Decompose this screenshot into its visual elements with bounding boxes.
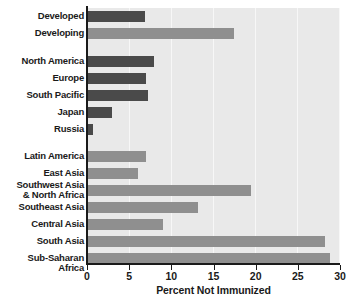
- x-tick-label: 15: [202, 270, 226, 282]
- x-axis-title: Percent Not Immunized: [87, 284, 340, 296]
- bar: [87, 90, 148, 101]
- x-tick-label: 5: [117, 270, 141, 282]
- category-label: Southeast Asia: [0, 202, 84, 212]
- gridline-30: [339, 8, 340, 263]
- bar: [87, 168, 138, 179]
- category-label: North America: [0, 56, 84, 66]
- category-label: Developed: [0, 11, 84, 21]
- category-label: South Pacific: [0, 90, 84, 100]
- gridline-10: [171, 8, 172, 263]
- x-tick-label: 10: [159, 270, 183, 282]
- bar: [87, 236, 325, 247]
- category-label: Developing: [0, 28, 84, 38]
- bar: [87, 219, 163, 230]
- gridline-25: [297, 8, 298, 263]
- bar: [87, 151, 146, 162]
- category-label: Southwest Asia & North Africa: [0, 180, 84, 200]
- bar: [87, 107, 112, 118]
- category-label: Europe: [0, 73, 84, 83]
- category-label: Japan: [0, 107, 84, 117]
- category-label: East Asia: [0, 168, 84, 178]
- gridline-20: [255, 8, 256, 263]
- bar: [87, 28, 234, 39]
- category-label: Sub-Saharan Africa: [0, 253, 84, 273]
- category-label: Latin America: [0, 151, 84, 161]
- y-axis-line: [86, 6, 88, 265]
- gridline-15: [213, 8, 214, 263]
- bar: [87, 11, 145, 22]
- x-tick-label: 20: [244, 270, 268, 282]
- category-label: South Asia: [0, 236, 84, 246]
- category-labels: DevelopedDevelopingNorth AmericaEuropeSo…: [0, 0, 84, 303]
- bar: [87, 185, 251, 196]
- x-tick-label: 25: [286, 270, 310, 282]
- category-label: Russia: [0, 124, 84, 134]
- plot-area: [87, 8, 340, 263]
- x-tick-label: 30: [328, 270, 352, 282]
- bar: [87, 56, 154, 67]
- bar: [87, 73, 146, 84]
- bar-chart: DevelopedDevelopingNorth AmericaEuropeSo…: [0, 0, 357, 303]
- x-tick-label: 0: [75, 270, 99, 282]
- bar: [87, 202, 198, 213]
- category-label: Central Asia: [0, 219, 84, 229]
